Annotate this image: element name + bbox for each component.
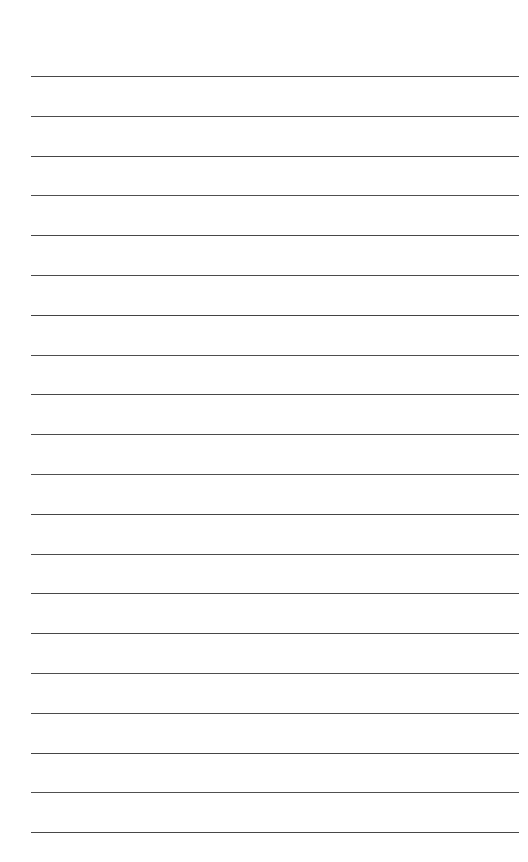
ruled-line [31,434,519,435]
ruled-line [31,315,519,316]
ruled-line [31,235,519,236]
ruled-line [31,76,519,77]
ruled-line [31,832,519,833]
ruled-line [31,156,519,157]
ruled-line [31,195,519,196]
ruled-line [31,514,519,515]
ruled-line [31,673,519,674]
ruled-line [31,593,519,594]
ruled-line [31,753,519,754]
ruled-line [31,713,519,714]
ruled-line [31,633,519,634]
ruled-line [31,394,519,395]
ruled-line [31,355,519,356]
ruled-line [31,792,519,793]
ruled-line [31,474,519,475]
lined-paper-page [0,0,528,862]
ruled-line [31,275,519,276]
ruled-line [31,116,519,117]
ruled-line [31,554,519,555]
